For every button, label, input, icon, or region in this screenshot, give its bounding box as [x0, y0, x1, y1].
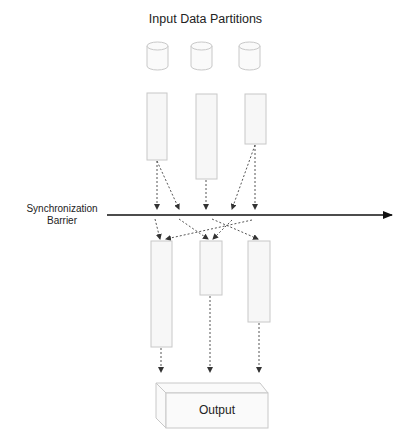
map-task-1: [147, 93, 167, 160]
shuffle-arrows: [155, 219, 258, 239]
input-partition-2: [191, 42, 212, 70]
input-partition-1: [147, 42, 168, 70]
output-label: Output: [166, 403, 268, 417]
reduce-task-3: [248, 241, 270, 322]
reduce-output-arrows: [161, 296, 259, 372]
map-task-2: [196, 94, 217, 179]
barrier-label-line1: Synchronization: [14, 203, 110, 215]
barrier-label-line2: Barrier: [14, 215, 110, 227]
barrier-label: Synchronization Barrier: [14, 203, 110, 227]
reduce-task-2: [200, 241, 222, 295]
reduce-task-1: [151, 241, 172, 347]
input-partition-3: [239, 42, 260, 70]
map-task-3: [245, 94, 266, 144]
